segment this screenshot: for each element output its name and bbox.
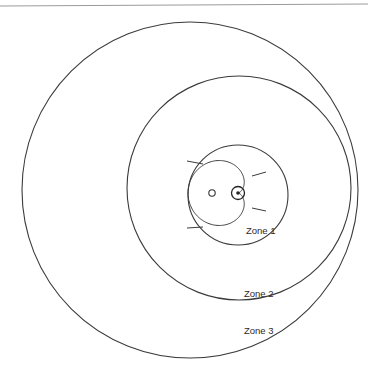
lower-right-tick bbox=[252, 208, 266, 211]
upper-right-tick bbox=[252, 172, 266, 176]
header-divider-line bbox=[0, 4, 368, 6]
zone2-label: Zone 2 bbox=[244, 288, 274, 299]
cardioid-pattern-curve bbox=[188, 161, 244, 226]
zone-diagram-svg: Zone 1 Zone 2 Zone 3 bbox=[0, 0, 368, 379]
satellite-point-marker bbox=[209, 190, 215, 196]
zone3-boundary-circle bbox=[22, 22, 358, 358]
center-point-dot bbox=[236, 191, 240, 195]
zone2-boundary-circle bbox=[127, 76, 351, 300]
zone1-label: Zone 1 bbox=[246, 225, 276, 236]
diagram-canvas: Zone 1 Zone 2 Zone 3 bbox=[0, 0, 368, 379]
zone3-label: Zone 3 bbox=[244, 325, 274, 336]
